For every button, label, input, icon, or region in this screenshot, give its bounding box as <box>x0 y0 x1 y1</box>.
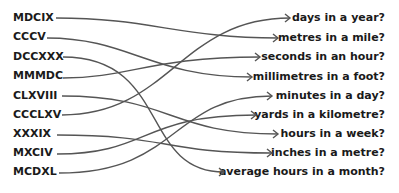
connector-mcdxl <box>59 96 272 173</box>
connector-xxxix <box>57 135 272 153</box>
connector-lines <box>0 0 399 193</box>
connector-mdcix <box>56 18 278 38</box>
connector-ccclxv <box>62 18 290 115</box>
